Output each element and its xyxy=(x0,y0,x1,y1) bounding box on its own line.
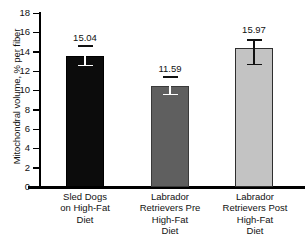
y-tick-10 xyxy=(33,90,40,92)
category-label-line: Labrador xyxy=(208,191,302,202)
category-label-sled-dogs: Sled Dogs on High-Fat Diet xyxy=(40,191,130,225)
error-bar-upper-cap-labrador-pre xyxy=(163,76,178,78)
y-tick-label-0: 0 xyxy=(0,182,30,192)
y-tick-16 xyxy=(33,32,40,34)
bar-labrador-post xyxy=(235,48,273,187)
y-tick-label-6: 6 xyxy=(0,124,30,134)
y-tick-2 xyxy=(33,167,40,169)
category-label-line: Diet xyxy=(124,225,216,236)
bar-labrador-pre xyxy=(151,86,189,188)
category-label-line: Retrievers Pre xyxy=(124,202,216,213)
bar-chart-figure: Mitochondral volume, % per fiber 18 16 1… xyxy=(0,0,305,249)
error-bar-stem-labrador-post xyxy=(253,40,255,65)
category-label-line: Retrievers Post xyxy=(208,202,302,213)
value-label-labrador-pre: 11.59 xyxy=(140,64,200,74)
y-tick-label-8: 8 xyxy=(0,105,30,115)
y-tick-14 xyxy=(33,51,40,53)
error-bar-upper-cap-labrador-post xyxy=(247,39,262,41)
category-label-line: Diet xyxy=(208,225,302,236)
category-label-labrador-pre: Labrador Retrievers Pre High-Fat Diet xyxy=(124,191,216,237)
error-bar-lower-cap-labrador-pre xyxy=(163,94,178,96)
category-label-line: Sled Dogs xyxy=(40,191,130,202)
y-tick-label-16: 16 xyxy=(0,27,30,37)
y-tick-8 xyxy=(33,109,40,111)
y-tick-0 xyxy=(33,187,40,189)
y-tick-label-10: 10 xyxy=(0,85,30,95)
y-tick-18 xyxy=(33,13,40,15)
error-bar-lower-cap-labrador-post xyxy=(247,64,262,66)
y-tick-label-2: 2 xyxy=(0,163,30,173)
category-label-line: on High-Fat xyxy=(40,202,130,213)
y-tick-label-12: 12 xyxy=(0,66,30,76)
y-tick-label-14: 14 xyxy=(0,47,30,57)
y-tick-6 xyxy=(33,129,40,131)
error-bar-stem-labrador-pre xyxy=(169,77,171,95)
category-label-line: High-Fat xyxy=(124,214,216,225)
y-axis-line xyxy=(39,12,41,188)
category-label-line: Labrador xyxy=(124,191,216,202)
bar-sled-dogs xyxy=(66,56,104,187)
error-bar-upper-cap-sled-dogs xyxy=(78,45,93,47)
y-tick-4 xyxy=(33,148,40,150)
y-tick-label-18: 18 xyxy=(0,8,30,18)
value-label-sled-dogs: 15.04 xyxy=(55,33,115,43)
category-label-line: High-Fat xyxy=(208,214,302,225)
y-tick-label-4: 4 xyxy=(0,143,30,153)
error-bar-stem-sled-dogs xyxy=(84,46,86,65)
category-label-labrador-post: Labrador Retrievers Post High-Fat Diet xyxy=(208,191,302,237)
value-label-labrador-post: 15.97 xyxy=(224,25,284,35)
category-label-line: Diet xyxy=(40,214,130,225)
y-tick-12 xyxy=(33,71,40,73)
error-bar-lower-cap-sled-dogs xyxy=(78,65,93,67)
